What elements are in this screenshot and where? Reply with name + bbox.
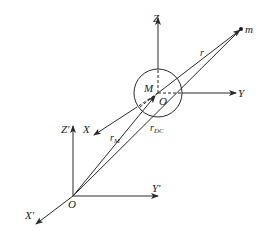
label-z-prime: Z'	[61, 123, 70, 135]
label-r-m: rM	[110, 132, 121, 145]
label-O-body: O	[159, 95, 167, 107]
label-y-prime: Y'	[152, 182, 161, 194]
point-m	[239, 27, 243, 31]
label-r: r	[200, 47, 204, 58]
label-x-prime: X'	[24, 209, 35, 221]
r-vector-inner-dashed	[140, 93, 158, 107]
label-M: M	[143, 82, 154, 94]
label-z: Z	[153, 12, 160, 24]
r-vector	[158, 30, 240, 93]
r-m-vector	[73, 96, 155, 196]
label-m: m	[245, 23, 253, 35]
label-y: Y	[238, 87, 246, 99]
label-x: X	[82, 123, 91, 135]
x-axis-solid	[94, 107, 137, 135]
label-r-dc: rDC	[150, 122, 164, 135]
label-O-global: O	[68, 198, 76, 210]
diagram-canvas: Z m r M O Y X Z' rM rDC Y' O X'	[0, 0, 266, 239]
r-dc-vector	[73, 30, 240, 196]
